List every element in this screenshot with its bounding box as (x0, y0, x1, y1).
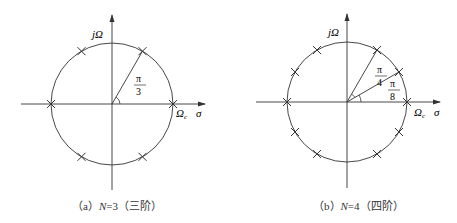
angle-arc2-b (359, 95, 361, 102)
omega-c-label-b: Ωc (414, 106, 426, 120)
angle1-num-b: π (377, 64, 382, 75)
sigma-label-a: σ (196, 107, 202, 119)
figure-b: jΩ π 4 π 8 Ωc σ (256, 14, 440, 188)
angle2-num-b: π (390, 78, 395, 89)
caption-a: （a）N=3（三阶） (72, 197, 162, 213)
caption-a-eq: =3（三阶） (106, 200, 162, 212)
caption-b-prefix: （b） (313, 200, 341, 212)
angle2-den-b: 8 (390, 91, 395, 102)
angle-num-a: π (136, 73, 141, 84)
jomega-label-a: jΩ (90, 28, 103, 40)
angle-arc-a (116, 97, 120, 104)
angle-den-a: 3 (136, 86, 141, 97)
sigma-label-b: σ (434, 106, 440, 118)
angle-arc1-b (352, 94, 356, 97)
caption-b-var: N (341, 200, 348, 212)
caption-b-eq: =4（四阶） (348, 200, 404, 212)
omega-c-label-a: Ωc (176, 107, 188, 121)
caption-a-prefix: （a） (72, 200, 99, 212)
jomega-label-b: jΩ (326, 26, 339, 38)
angle1-den-b: 4 (377, 77, 382, 88)
figure-a: jΩ π 3 Ωc σ (21, 15, 205, 190)
caption-b: （b）N=4（四阶） (313, 197, 404, 213)
diagram-canvas: jΩ π 3 Ωc σ jΩ π 4 π 8 Ωc σ (0, 0, 457, 223)
